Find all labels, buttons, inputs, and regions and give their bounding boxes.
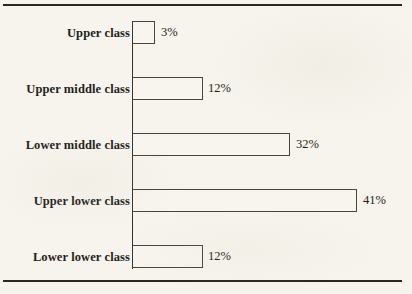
bar-row: Lower lower class 12% bbox=[0, 245, 412, 269]
figure-top-rule bbox=[3, 4, 402, 6]
bar-row: Upper lower class 41% bbox=[0, 189, 412, 213]
bar-value-label: 12% bbox=[208, 245, 231, 268]
bar-chart-figure: Upper class 3% Upper middle class 12% Lo… bbox=[0, 0, 412, 294]
bar-category-label: Upper middle class bbox=[26, 77, 130, 101]
bar-shape bbox=[132, 189, 357, 212]
bar-category-label: Lower middle class bbox=[26, 133, 130, 157]
bar-value-label: 3% bbox=[161, 21, 178, 44]
bar-value-label: 41% bbox=[363, 189, 386, 212]
bar-shape bbox=[132, 21, 155, 44]
figure-bottom-rule bbox=[3, 280, 402, 282]
bar-category-label: Lower lower class bbox=[33, 245, 130, 269]
bar-row: Lower middle class 32% bbox=[0, 133, 412, 157]
bar-shape bbox=[132, 77, 203, 100]
bar-category-label: Upper class bbox=[67, 21, 130, 45]
bar-row: Upper middle class 12% bbox=[0, 77, 412, 101]
bar-value-label: 32% bbox=[296, 133, 319, 156]
bar-shape bbox=[132, 245, 203, 268]
bar-value-label: 12% bbox=[208, 77, 231, 100]
plot-area: Upper class 3% Upper middle class 12% Lo… bbox=[0, 0, 412, 294]
bar-category-label: Upper lower class bbox=[34, 189, 130, 213]
bar-shape bbox=[132, 133, 290, 156]
category-axis-line bbox=[132, 21, 133, 269]
bar-row: Upper class 3% bbox=[0, 21, 412, 45]
